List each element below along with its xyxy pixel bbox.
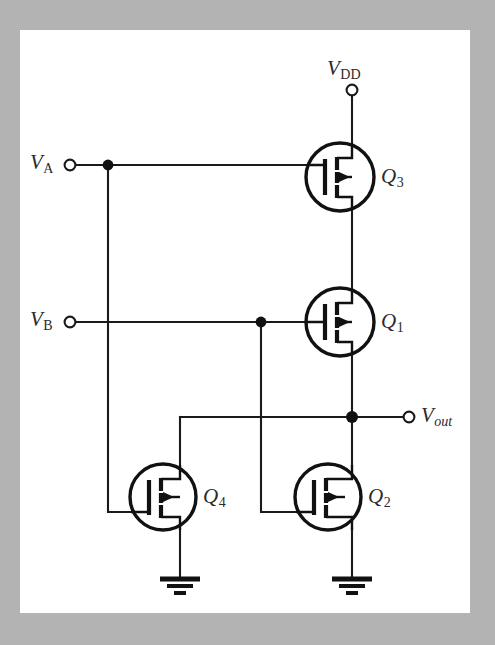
label-vout-subscript: out	[434, 414, 452, 429]
ground-symbol-q4	[160, 579, 200, 593]
label-q2: Q2	[368, 486, 390, 507]
terminal-circle-vout[interactable]	[404, 412, 415, 423]
label-vb-symbol: V	[30, 307, 43, 331]
label-q2-subscript: 2	[384, 495, 391, 510]
label-q3: Q3	[381, 166, 403, 187]
transistor-q2-symbol	[295, 464, 361, 530]
q3-drain-lead	[337, 145, 352, 158]
label-vout-symbol: V	[421, 403, 434, 427]
q2-gate-lead	[296, 512, 314, 513]
q1-body-arrow-icon	[339, 317, 350, 327]
q4-gate-lead	[131, 512, 149, 513]
terminal-circle-vb[interactable]	[65, 317, 76, 328]
net-va-branch-to-q4-gate	[108, 165, 131, 512]
label-vdd-symbol: V	[327, 56, 340, 80]
q2-body-arrow-icon	[328, 492, 339, 502]
label-q3-symbol: Q	[381, 164, 396, 188]
circuit-schematic-canvas	[0, 0, 495, 645]
q3-gate-lead	[307, 165, 325, 166]
figure-frame: VDD VA VB Vout Q3 Q1 Q4 Q2	[0, 0, 495, 645]
label-q3-subscript: 3	[397, 175, 404, 190]
label-q1-symbol: Q	[381, 309, 396, 333]
ground-symbol-q2	[332, 579, 372, 593]
junction-vb-branch	[256, 317, 267, 328]
label-vb: VB	[30, 309, 52, 330]
label-va-subscript: A	[43, 161, 53, 176]
label-va-symbol: V	[30, 150, 43, 174]
transistor-q3-symbol	[306, 143, 374, 211]
junction-vout-node	[346, 411, 358, 423]
label-q4-symbol: Q	[203, 484, 218, 508]
label-q4-subscript: 4	[219, 495, 226, 510]
transistor-q4-symbol	[130, 464, 196, 530]
label-vout: Vout	[421, 405, 452, 426]
terminal-circle-va[interactable]	[65, 160, 76, 171]
label-vdd-subscript: DD	[340, 67, 360, 82]
terminal-circle-vdd[interactable]	[347, 85, 358, 96]
label-vdd: VDD	[327, 58, 360, 79]
junction-va-branch	[103, 160, 114, 171]
q4-body-arrow-icon	[163, 492, 174, 502]
label-q4: Q4	[203, 486, 225, 507]
transistor-q1-symbol	[306, 288, 374, 356]
label-q2-symbol: Q	[368, 484, 383, 508]
q1-gate-lead	[307, 322, 325, 323]
net-group	[77, 95, 403, 579]
label-q1-subscript: 1	[397, 320, 404, 335]
label-vb-subscript: B	[43, 318, 52, 333]
label-q1: Q1	[381, 311, 403, 332]
q3-body-arrow-icon	[339, 172, 350, 182]
label-va: VA	[30, 152, 53, 173]
